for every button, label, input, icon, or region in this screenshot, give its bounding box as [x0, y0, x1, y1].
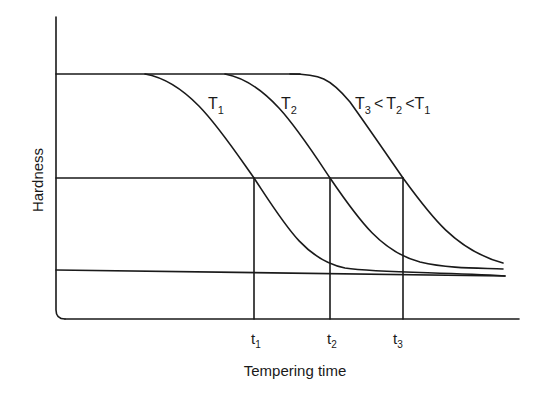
label-t1: T1: [208, 95, 224, 116]
curve-t1: [145, 74, 505, 276]
y-axis-label: Hardness: [29, 148, 46, 212]
tick-t2: t2: [327, 330, 337, 350]
relation-label: T3<T2<T1: [355, 95, 430, 116]
curve-t3: [290, 74, 503, 263]
tick-t1: t1: [251, 330, 261, 350]
x-axis-label: Tempering time: [244, 362, 347, 379]
tempering-hardness-diagram: T1 T2 T3<T2<T1 t1 t2 t3 Tempering time H…: [0, 0, 546, 398]
y-axis: [56, 17, 65, 319]
tick-t3: t3: [393, 330, 403, 350]
